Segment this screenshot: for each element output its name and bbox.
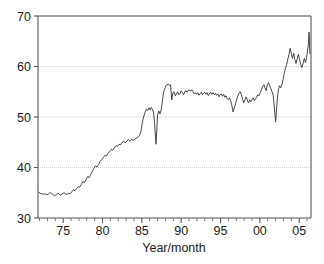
- y-tick-label: 60: [17, 60, 31, 74]
- x-tick-label: 75: [56, 224, 70, 238]
- y-axis-ticks: [34, 16, 38, 218]
- x-tick-label: 80: [96, 224, 110, 238]
- y-tick-label: 40: [17, 161, 31, 175]
- x-tick-label: 05: [292, 224, 306, 238]
- y-tick-label: 70: [17, 10, 31, 24]
- x-axis-title: Year/month: [142, 241, 206, 255]
- y-tick-label: 50: [17, 111, 31, 125]
- y-tick-label: 30: [17, 212, 31, 226]
- x-axis-tick-labels: 75808590950005: [56, 224, 306, 238]
- line-chart: 75808590950005 3040506070 Year/month: [0, 0, 324, 264]
- y-axis-tick-labels: 3040506070: [17, 10, 31, 226]
- data-series: [39, 32, 310, 196]
- series-line: [39, 32, 310, 196]
- x-tick-label: 90: [174, 224, 188, 238]
- chart-container: 75808590950005 3040506070 Year/month: [0, 0, 324, 264]
- x-tick-label: 95: [214, 224, 228, 238]
- x-tick-label: 85: [135, 224, 149, 238]
- x-axis-ticks: [40, 218, 307, 223]
- x-tick-label: 00: [253, 224, 267, 238]
